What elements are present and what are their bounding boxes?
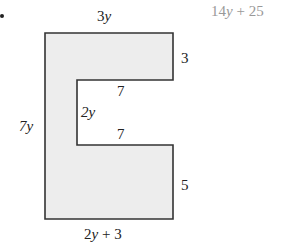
label-right-top: 3 xyxy=(181,50,189,66)
perimeter-diagram: 3y 3 7 2y 7 7y 5 2y + 3 14y + 25 xyxy=(0,0,308,252)
label-right-bottom: 5 xyxy=(181,177,189,193)
label-top: 3y xyxy=(97,8,111,24)
c-shape xyxy=(0,0,308,252)
label-notch-top: 7 xyxy=(117,83,125,99)
answer-text: 14y + 25 xyxy=(211,3,264,20)
label-bottom: 2y + 3 xyxy=(84,226,122,242)
label-notch-side: 2y xyxy=(81,104,95,120)
label-notch-bottom: 7 xyxy=(117,126,125,142)
label-left: 7y xyxy=(19,118,33,134)
